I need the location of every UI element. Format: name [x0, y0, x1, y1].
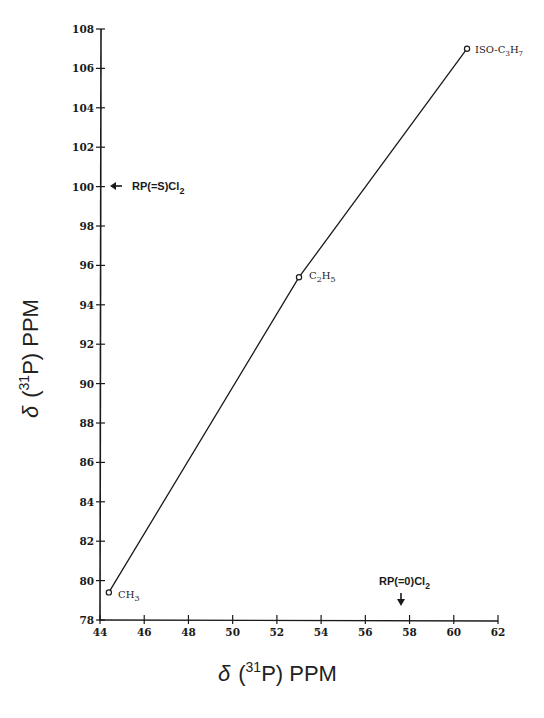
- y-tick-label: 82: [79, 535, 94, 547]
- arrow-down-icon: [397, 593, 405, 606]
- y-tick-label: 94: [79, 299, 94, 311]
- x-axis-title: δ(31P) PPM: [218, 659, 337, 686]
- svg-text:RP(=S)Cl2: RP(=S)Cl2: [132, 180, 184, 196]
- data-point-marker: [296, 275, 301, 280]
- y-tick-label: 86: [79, 456, 94, 468]
- x-tick-label: 46: [137, 626, 152, 638]
- x-tick-label: 44: [93, 626, 108, 638]
- x-tick-label: 62: [491, 626, 506, 638]
- annotation-rps-cl2: RP(=S)Cl2: [110, 180, 184, 196]
- y-tick-label: 102: [72, 141, 94, 153]
- series-line: [109, 49, 467, 593]
- y-tick-label: 108: [72, 23, 94, 35]
- y-tick-label: 80: [79, 575, 94, 587]
- x-tick-label: 54: [314, 626, 329, 638]
- x-axis: 44464850525456586062: [93, 615, 506, 638]
- x-tick-label: 56: [358, 626, 373, 638]
- y-tick-label: 96: [79, 259, 94, 271]
- data-point-marker: [464, 46, 469, 51]
- data-point-marker: [106, 590, 111, 595]
- y-tick-label: 98: [79, 220, 94, 232]
- point-label-iso-c3h7: ISO-C3H7: [475, 44, 523, 58]
- data-series: [106, 46, 469, 595]
- x-tick-label: 60: [446, 626, 461, 638]
- y-axis-title: δ(31P) PPM: [16, 299, 43, 418]
- y-tick-label: 84: [79, 496, 94, 508]
- x-tick-label: 48: [181, 626, 196, 638]
- x-tick-label: 58: [402, 626, 417, 638]
- point-label-ch3: CH3: [118, 589, 139, 603]
- y-tick-label: 90: [79, 378, 94, 390]
- y-tick-label: 106: [72, 62, 94, 74]
- y-tick-label: 100: [72, 181, 94, 193]
- svg-text:RP(=0)Cl2: RP(=0)Cl2: [379, 575, 430, 591]
- y-tick-label: 88: [79, 417, 94, 429]
- x-tick-label: 52: [270, 626, 285, 638]
- y-tick-label: 104: [72, 102, 94, 114]
- arrow-left-icon: [110, 182, 122, 190]
- y-tick-label: 78: [79, 614, 94, 626]
- point-label-c2h5: C2H5: [309, 270, 336, 284]
- annotation-rpo-cl2: RP(=0)Cl2: [379, 575, 430, 606]
- x-tick-label: 50: [225, 626, 240, 638]
- chart: 7880828486889092949698100102104106108 44…: [0, 0, 544, 718]
- y-tick-label: 92: [79, 338, 94, 350]
- y-axis: 7880828486889092949698100102104106108: [72, 23, 105, 626]
- x-axis-ticks: 44464850525456586062: [93, 615, 506, 638]
